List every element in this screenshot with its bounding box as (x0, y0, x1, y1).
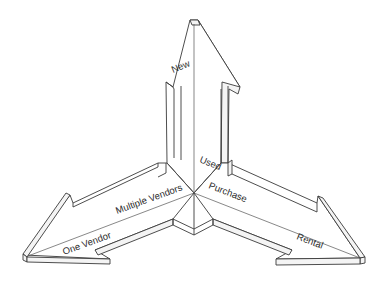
left-arrow (23, 163, 194, 264)
right-arrow (194, 160, 365, 265)
three-way-arrow-diagram: New Used Multiple Vendors One Vendor Pur… (0, 0, 382, 285)
diagram-canvas: New Used Multiple Vendors One Vendor Pur… (0, 0, 382, 285)
